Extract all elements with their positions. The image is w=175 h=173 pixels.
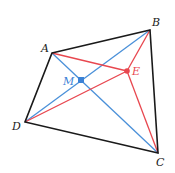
label-b: B [151, 16, 160, 29]
point-m [78, 77, 84, 83]
label-e: E [131, 65, 140, 78]
label-a: A [40, 42, 49, 55]
label-m: M [62, 75, 75, 88]
point-e [124, 68, 130, 74]
diagonal-ac [52, 53, 158, 153]
label-c: C [156, 156, 165, 169]
label-d: D [11, 120, 21, 133]
quadrilateral-diagram: A B C D M E [0, 0, 175, 173]
segment-de [25, 71, 127, 122]
